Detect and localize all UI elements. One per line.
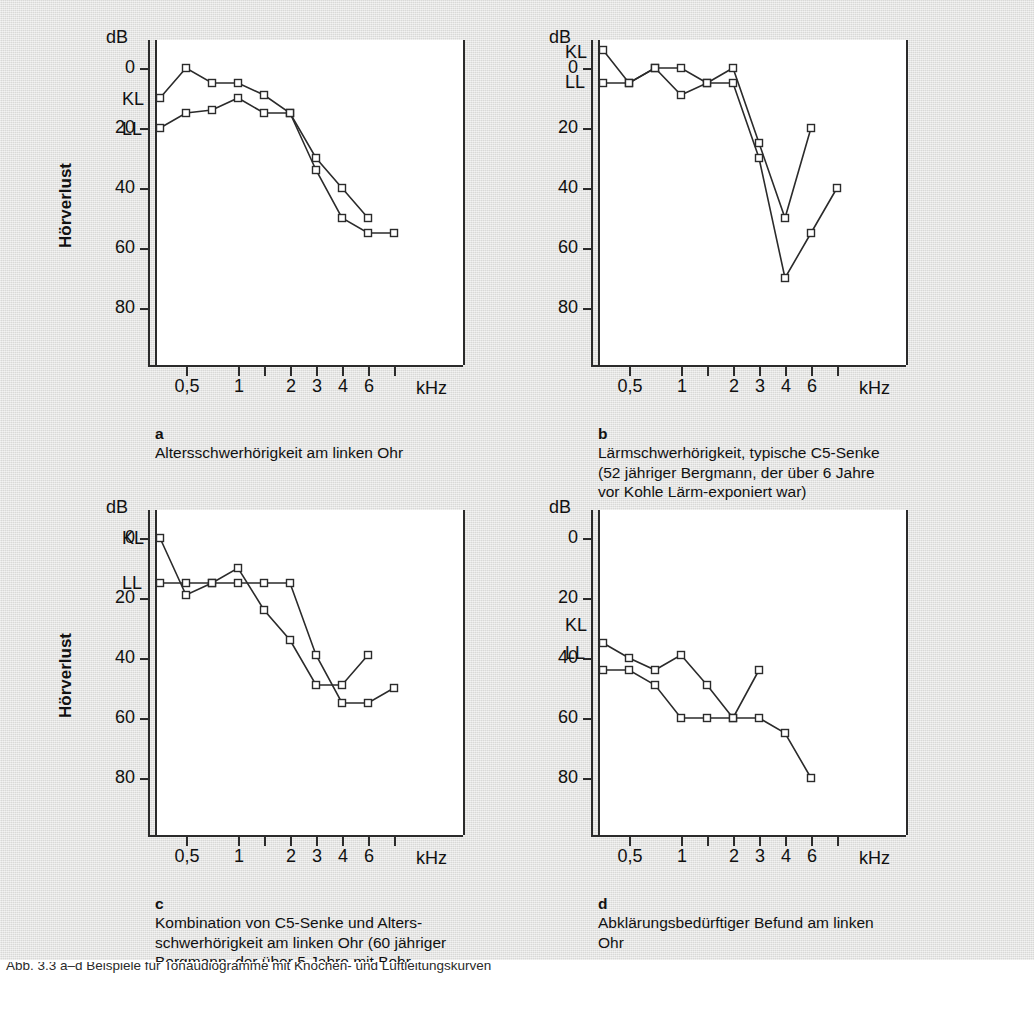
figure-bottom-note: Abb. 3.3 a–d Beispiele für Tonaudiogramm… xyxy=(6,962,491,973)
panel-b-series-kl xyxy=(603,50,811,218)
panel-d: dB 0 20 40 60 80 0,5 1 2 3 4 6 kHz KL LL xyxy=(517,470,1034,960)
panel-d-index: d xyxy=(598,895,607,912)
panel-c-index: c xyxy=(155,895,164,912)
panel-d-caption: d Abklärungsbedürftiger Befund am linken… xyxy=(598,874,958,952)
panel-c-series-ll xyxy=(160,583,394,703)
figure-bottom-note-area: Abb. 3.3 a–d Beispiele für Tonaudiogramm… xyxy=(0,962,1034,1012)
figure-container: dB Hörverlust 0 20 40 60 80 0,5 1 2 3 4 … xyxy=(0,0,1034,960)
panel-b-markers xyxy=(600,47,841,282)
panel-a-caption: a Altersschwerhörigkeit am linken Ohr xyxy=(155,404,505,463)
panel-b-index: b xyxy=(598,425,607,442)
panel-c-markers xyxy=(157,535,398,707)
panel-b: dB 0 20 40 60 80 0,5 1 2 3 4 6 kHz KL LL xyxy=(517,0,1034,480)
panel-a-index: a xyxy=(155,425,164,442)
panel-a-series-kl xyxy=(160,68,368,218)
panel-c: dB Hörverlust 0 20 40 60 80 0,5 1 2 3 4 … xyxy=(0,470,517,960)
panel-a-caption-text: Altersschwerhörigkeit am linken Ohr xyxy=(155,444,403,461)
panel-b-series-ll xyxy=(603,68,837,278)
panel-a-series-ll xyxy=(160,98,394,233)
panel-d-markers xyxy=(600,640,815,782)
panel-d-caption-text: Abklärungsbedürftiger Befund am linken O… xyxy=(598,914,874,951)
panel-a: dB Hörverlust 0 20 40 60 80 0,5 1 2 3 4 … xyxy=(0,0,517,480)
